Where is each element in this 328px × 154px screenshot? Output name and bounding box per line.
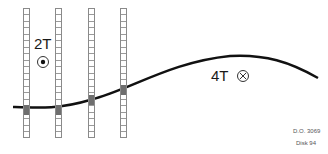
domain-column-1 (23, 8, 30, 138)
disk-label: Disk 94 (296, 140, 316, 146)
field-label-2t: 2T (33, 35, 53, 52)
switched-cell-3 (89, 95, 94, 105)
dot-in-circle-icon (36, 55, 50, 69)
domain-column-2 (55, 8, 62, 138)
switched-cell-2 (56, 105, 61, 115)
field-label-4t: 4T (211, 67, 229, 84)
domain-column-3 (88, 8, 95, 138)
reference-code: D.O. 3069 (293, 128, 320, 134)
cross-in-circle-icon (236, 69, 250, 83)
switched-cell-1 (24, 105, 29, 115)
trajectory-curve (0, 0, 328, 154)
domain-column-4 (120, 8, 127, 138)
switched-cell-4 (121, 85, 126, 95)
